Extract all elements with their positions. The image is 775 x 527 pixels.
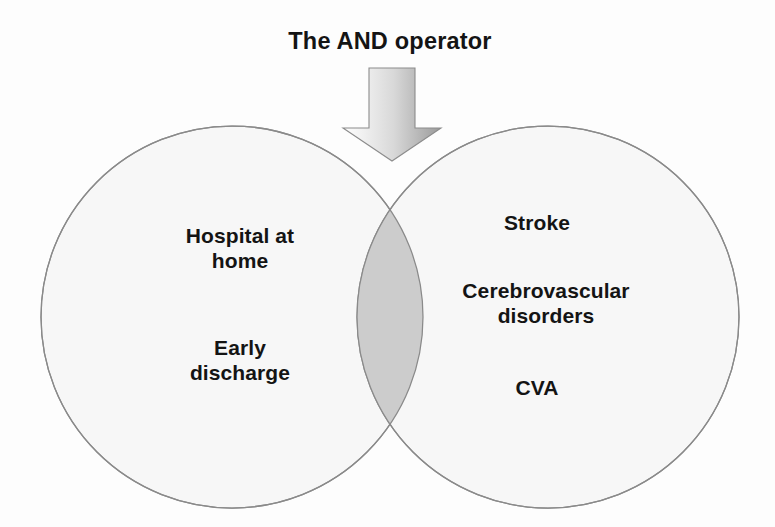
venn-diagram-graphic <box>0 0 775 527</box>
venn-diagram-canvas: The AND operator Hospital at home Early … <box>0 0 775 527</box>
right-set-label-cerebrovascular-disorders: Cerebrovascular disorders <box>430 279 662 329</box>
page-title: The AND operator <box>205 28 575 56</box>
left-set-label-early-discharge: Early discharge <box>130 336 350 386</box>
right-set-label-cva: CVA <box>457 376 617 401</box>
right-set-label-stroke: Stroke <box>447 211 627 236</box>
down-arrow-icon <box>343 68 441 161</box>
left-set-label-hospital-at-home: Hospital at home <box>130 224 350 274</box>
